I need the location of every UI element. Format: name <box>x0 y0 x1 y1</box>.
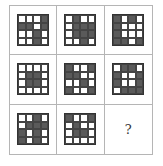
light-square <box>65 122 73 130</box>
light-square <box>121 30 129 38</box>
light-square <box>26 30 34 38</box>
question-mark: ? <box>125 122 132 137</box>
pattern-panel <box>10 55 57 104</box>
dark-square <box>65 87 73 95</box>
light-square <box>26 137 34 145</box>
light-square <box>18 79 26 87</box>
dark-square <box>73 23 81 31</box>
light-square <box>33 23 41 31</box>
light-square <box>80 122 88 130</box>
pattern-grid <box>17 63 49 95</box>
dark-square <box>65 114 73 122</box>
dark-square <box>33 137 41 145</box>
light-square <box>26 129 34 137</box>
dark-square <box>121 64 129 72</box>
dark-square <box>80 23 88 31</box>
pattern-panel <box>10 105 57 154</box>
light-square <box>65 79 73 87</box>
light-square <box>73 64 81 72</box>
light-square <box>65 23 73 31</box>
dark-square <box>33 114 41 122</box>
pattern-panel <box>57 55 104 104</box>
pattern-panel <box>10 6 57 55</box>
light-square <box>26 114 34 122</box>
light-square <box>33 15 41 23</box>
dark-square <box>26 79 34 87</box>
light-square <box>73 114 81 122</box>
light-square <box>73 79 81 87</box>
dark-square <box>26 72 34 80</box>
light-square <box>128 72 136 80</box>
light-square <box>18 64 26 72</box>
light-square <box>80 15 88 23</box>
light-square <box>128 30 136 38</box>
dark-square <box>88 87 96 95</box>
light-square <box>65 15 73 23</box>
light-square <box>18 15 26 23</box>
light-square <box>80 87 88 95</box>
light-square <box>41 129 49 137</box>
light-square <box>128 38 136 46</box>
light-square <box>18 87 26 95</box>
dark-square <box>136 79 144 87</box>
light-square <box>18 30 26 38</box>
dark-square <box>80 129 88 137</box>
light-square <box>80 72 88 80</box>
light-square <box>18 122 26 130</box>
dark-square <box>88 23 96 31</box>
light-square <box>88 137 96 145</box>
light-square <box>65 38 73 46</box>
light-square <box>73 38 81 46</box>
dark-square <box>33 122 41 130</box>
dark-square <box>80 79 88 87</box>
light-square <box>121 72 129 80</box>
light-square <box>65 30 73 38</box>
dark-square <box>128 87 136 95</box>
light-square <box>26 15 34 23</box>
pattern-panel <box>57 105 104 154</box>
dark-square <box>113 38 121 46</box>
dark-square <box>113 23 121 31</box>
dark-square <box>73 122 81 130</box>
dark-square <box>65 72 73 80</box>
dark-square <box>41 23 49 31</box>
light-square <box>88 15 96 23</box>
dark-square <box>80 38 88 46</box>
light-square <box>73 137 81 145</box>
light-square <box>41 87 49 95</box>
dark-square <box>33 72 41 80</box>
light-square <box>18 38 26 46</box>
light-square <box>65 137 73 145</box>
dark-square <box>88 30 96 38</box>
dark-square <box>73 15 81 23</box>
dark-square <box>73 72 81 80</box>
light-square <box>41 114 49 122</box>
dark-square <box>113 30 121 38</box>
dark-square <box>113 79 121 87</box>
light-square <box>121 15 129 23</box>
dark-square <box>73 129 81 137</box>
pattern-grid <box>17 14 49 46</box>
pattern-panel <box>57 6 104 55</box>
light-square <box>26 87 34 95</box>
dark-square <box>65 64 73 72</box>
light-square <box>80 114 88 122</box>
dark-square <box>73 30 81 38</box>
light-square <box>136 15 144 23</box>
dark-square <box>18 137 26 145</box>
light-square <box>88 122 96 130</box>
dark-square <box>41 122 49 130</box>
dark-square <box>18 23 26 31</box>
light-square <box>41 64 49 72</box>
light-square <box>88 38 96 46</box>
light-square <box>41 72 49 80</box>
dark-square <box>80 30 88 38</box>
light-square <box>88 79 96 87</box>
dark-square <box>26 23 34 31</box>
matrix-puzzle: ? <box>9 5 153 155</box>
light-square <box>136 30 144 38</box>
light-square <box>80 64 88 72</box>
light-square <box>18 72 26 80</box>
light-square <box>18 114 26 122</box>
dark-square <box>121 38 129 46</box>
